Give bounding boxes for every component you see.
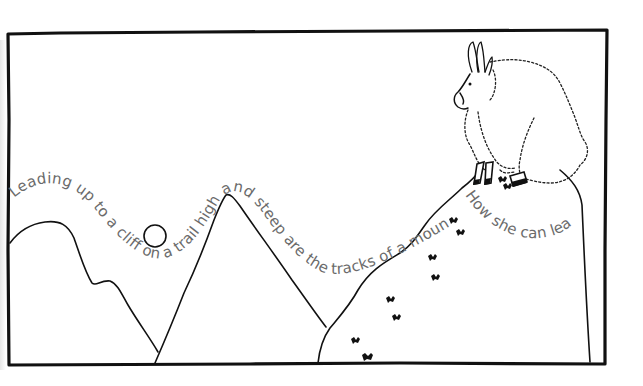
- caption-goat: How she can leap!: [0, 0, 575, 242]
- middle-mountain: [155, 195, 326, 363]
- illustration: Leading up to a cliff on a trail high an…: [0, 0, 643, 386]
- mountain-goat: [454, 42, 587, 187]
- caption-main: Leading up to a cliff on a trail high an…: [0, 0, 452, 278]
- cliff-right-edge: [560, 170, 590, 362]
- caption-main-path: Leading up to a cliff on a trail high an…: [0, 0, 452, 278]
- caption-goat-path: How she can leap!: [0, 0, 575, 242]
